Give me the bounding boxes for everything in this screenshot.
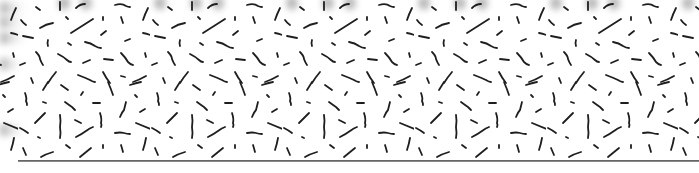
bottom-baseline xyxy=(18,160,699,162)
dash-pattern xyxy=(0,0,699,173)
dash-fill xyxy=(0,0,699,158)
noise-texture-canvas xyxy=(0,0,699,173)
